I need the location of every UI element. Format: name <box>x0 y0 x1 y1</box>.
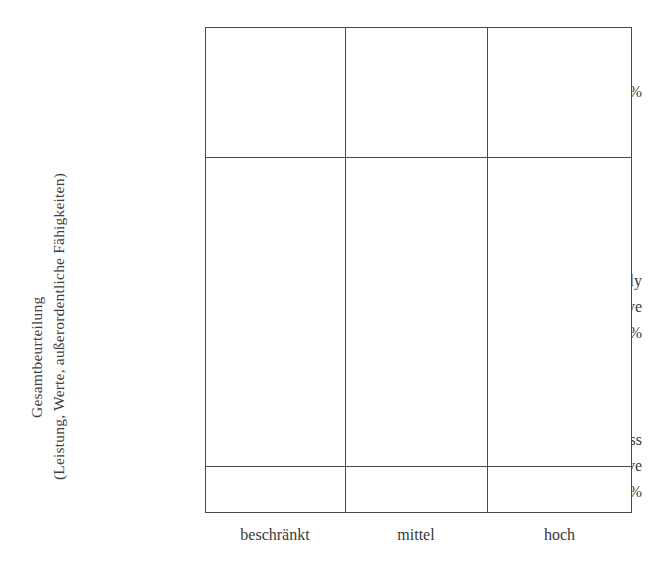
grid-cell-top-right[interactable] <box>488 28 631 157</box>
grid-cell-middle-left[interactable] <box>206 158 345 466</box>
grid-divider-horizontal-1 <box>206 157 631 158</box>
y-axis-caption-line-secondary: (Leistung, Werte, außerordentliche Fähig… <box>50 173 68 480</box>
grid-cell-top-middle[interactable] <box>346 28 487 157</box>
x-axis-tick-label-beschraenkt: beschränkt <box>205 524 345 546</box>
grid-divider-vertical-1 <box>345 28 346 512</box>
grid-cell-bottom-middle[interactable] <box>346 467 487 512</box>
grid-cell-middle-right[interactable] <box>488 158 631 466</box>
x-axis-tick-label-mittel: mittel <box>345 524 487 546</box>
grid-divider-horizontal-2 <box>206 466 631 467</box>
grid-divider-vertical-2 <box>487 28 488 512</box>
matrix-grid <box>205 27 632 513</box>
x-axis-tick-label-hoch: hoch <box>487 524 632 546</box>
grid-cell-top-left[interactable] <box>206 28 345 157</box>
grid-cell-bottom-right[interactable] <box>488 467 631 512</box>
grid-cell-bottom-left[interactable] <box>206 467 345 512</box>
y-axis-caption: Gesamtbeurteilung (Leistung, Werte, auße… <box>0 0 100 520</box>
grid-cell-middle-middle[interactable] <box>346 158 487 466</box>
y-axis-caption-line-primary: Gesamtbeurteilung <box>28 297 46 418</box>
